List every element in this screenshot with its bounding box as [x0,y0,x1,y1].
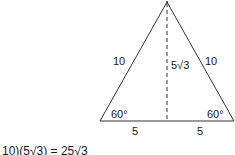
apex-point [166,1,168,3]
base-right-label: 5 [197,126,203,137]
left-angle-label: 60° [111,109,128,120]
left-side-label: 10 [113,56,125,67]
right-side-label: 10 [205,56,217,67]
right-angle-label: 60° [207,109,224,120]
base-left-label: 5 [132,126,138,137]
height-label: 5√3 [171,60,189,71]
area-formula: 10)(5√3) = 25√3 [2,144,88,155]
